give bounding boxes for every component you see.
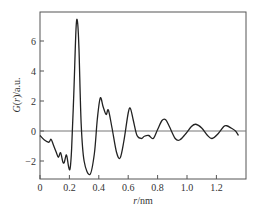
data-series xyxy=(40,19,238,174)
y-axis-ticks: −20246 xyxy=(25,36,44,167)
y-tick-label: 4 xyxy=(31,66,36,77)
y-tick-label: −2 xyxy=(25,156,36,167)
x-tick-label: 0.8 xyxy=(151,182,164,193)
x-tick-label: 0.4 xyxy=(93,182,106,193)
y-tick-label: 2 xyxy=(31,96,36,107)
x-axis-ticks: 00.20.40.60.81.01.2 xyxy=(38,175,223,193)
y-tick-label: 6 xyxy=(31,36,36,47)
x-tick-label: 0 xyxy=(38,182,43,193)
y-tick-label: 0 xyxy=(31,126,36,137)
series-line xyxy=(40,19,238,174)
x-tick-label: 1.0 xyxy=(181,182,194,193)
x-tick-label: 0.2 xyxy=(63,182,76,193)
x-tick-label: 0.6 xyxy=(122,182,135,193)
chart: 00.20.40.60.81.01.2 −20246 r/nmG(r)/a.u. xyxy=(0,0,254,210)
y-axis-label: G(r)/a.u. xyxy=(11,77,23,112)
x-axis-label: r/nm xyxy=(133,195,153,206)
x-tick-label: 1.2 xyxy=(210,182,223,193)
